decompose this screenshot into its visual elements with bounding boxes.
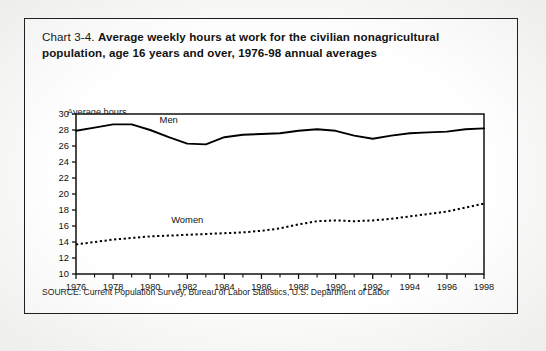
- source-note: SOURCE: Current Population Survey, Burea…: [42, 287, 390, 297]
- series-label-men: Men: [160, 114, 178, 125]
- series-label-women: Women: [171, 214, 203, 225]
- plot-area: 1012141618202224262830 19761978198019821…: [25, 19, 519, 315]
- chart-frame: [76, 114, 484, 274]
- svg-text:24: 24: [59, 156, 69, 167]
- svg-text:1996: 1996: [437, 282, 457, 292]
- line-chart-svg: 1012141618202224262830 19761978198019821…: [25, 19, 519, 315]
- svg-text:10: 10: [59, 268, 69, 279]
- svg-text:14: 14: [59, 236, 69, 247]
- figure-box: Chart 3-4. Average weekly hours at work …: [24, 18, 518, 314]
- svg-text:26: 26: [59, 140, 69, 151]
- svg-text:1998: 1998: [474, 282, 494, 292]
- svg-text:22: 22: [59, 172, 69, 183]
- scanned-page: Chart 3-4. Average weekly hours at work …: [0, 0, 546, 351]
- svg-text:20: 20: [59, 188, 69, 199]
- svg-text:16: 16: [59, 220, 69, 231]
- svg-text:30: 30: [59, 108, 69, 119]
- svg-text:28: 28: [59, 124, 69, 135]
- y-axis-ticks: 1012141618202224262830: [59, 108, 76, 279]
- svg-text:12: 12: [59, 252, 69, 263]
- svg-text:18: 18: [59, 204, 69, 215]
- svg-text:1994: 1994: [400, 282, 420, 292]
